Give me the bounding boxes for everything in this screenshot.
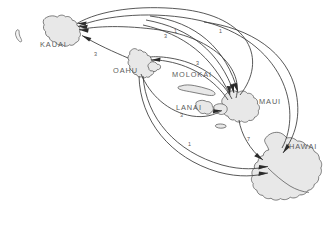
island-label-molokai: MOLOKAI [172, 70, 212, 79]
route-maui-kauai-outer [77, 8, 253, 95]
route-maui-hawaii [239, 120, 263, 160]
island-oahu-east-lobe [148, 62, 161, 72]
island-label-lanai: LANAI [176, 103, 202, 112]
route-count-oahu-maui-lower: 3 [180, 112, 183, 118]
route-maui-inbound-a [150, 16, 238, 92]
route-count-maui-hawaii: 7 [247, 136, 250, 142]
island-label-maui: MAUI [259, 97, 281, 106]
island-maui [222, 91, 260, 122]
route-count-oahu-kauai: 3 [94, 51, 97, 57]
route-oahu-kauai-arrowhead [82, 36, 91, 42]
island-label-hawaii: HAWAI [289, 142, 317, 151]
island-molokai [178, 85, 215, 96]
route-count-oahu-hawaii: 1 [188, 141, 191, 147]
island-maui-west-lobe [214, 104, 228, 115]
island-niihau [16, 30, 22, 42]
route-maui-kauai-inner [79, 27, 237, 98]
route-count-maui-kauai-inner: 3 [164, 33, 167, 39]
route-maui-oahu-upper [151, 60, 228, 100]
routes-layer [77, 8, 298, 176]
island-label-kauai: KAUAI [40, 40, 67, 49]
route-count-hawaii-kauai-outer: 1 [174, 28, 177, 34]
island-kahoolawe [215, 124, 226, 128]
hawaii-route-map: KAUAI OAHU MOLOKAI LANAI MAUI HAWAI 1 1 … [0, 0, 334, 229]
route-count-maui-oahu-upper: 3 [196, 60, 199, 66]
route-count-maui-kauai-outer: 1 [219, 28, 222, 34]
island-label-oahu: OAHU [113, 66, 138, 75]
